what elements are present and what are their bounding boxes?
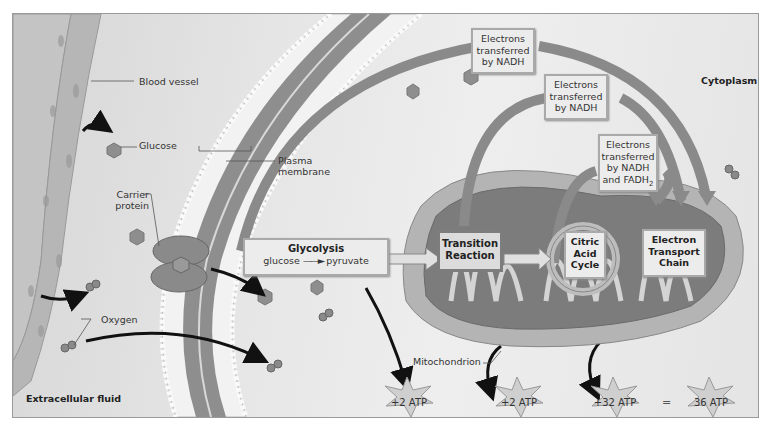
electron-box-2-line2: transferred: [546, 91, 606, 103]
electron-box-3-line4: and FADH2: [600, 174, 656, 190]
carrier-protein-label: Carrier protein: [99, 189, 149, 211]
atp-total: 36 ATP: [676, 397, 746, 409]
citric-acid-cycle-box: Citric Acid Cycle: [564, 231, 606, 279]
blood-vessel-icon: [13, 14, 101, 396]
electron-box-1-line3: by NADH: [473, 56, 533, 68]
electron-transport-chain-label: Electron Transport Chain: [648, 234, 700, 268]
electron-box-3-line1: Electrons: [600, 139, 656, 151]
electron-box-2-line1: Electrons: [546, 79, 606, 91]
electron-box-1: Electrons transferred by NADH: [471, 28, 535, 74]
glycolysis-from: glucose: [263, 255, 300, 266]
diagram-artwork: [13, 14, 758, 417]
electron-box-3: Electrons transferred by NADH and FADH2: [598, 134, 658, 192]
glycolysis-box: Glycolysis glucose ——► pyruvate: [243, 238, 389, 276]
citric-acid-cycle-label: Citric Acid Cycle: [571, 236, 600, 270]
electron-box-3-line3: by NADH: [600, 162, 656, 174]
electron-transport-chain-box: Electron Transport Chain: [642, 229, 706, 277]
electron-box-1-line1: Electrons: [473, 33, 533, 45]
electron-box-2-line3: by NADH: [546, 102, 606, 114]
glucose-label: Glucose: [139, 140, 177, 151]
diagram-frame: Blood vessel Glucose Carrier protein Pla…: [12, 13, 759, 418]
atp-glycolysis: +2 ATP: [374, 397, 444, 409]
atp-etc: +32 ATP: [580, 397, 650, 409]
transition-reaction-label: Transition Reaction: [442, 238, 498, 261]
electron-box-3-line2: transferred: [600, 151, 656, 163]
right-arrow-icon: ——►: [303, 255, 323, 266]
glycolysis-equation: glucose ——► pyruvate: [245, 255, 387, 267]
plasma-membrane-label: Plasma membrane: [278, 155, 338, 177]
glycolysis-title: Glycolysis: [245, 243, 387, 255]
blood-vessel-label: Blood vessel: [139, 76, 199, 87]
cytoplasm-label: Cytoplasm: [701, 75, 757, 86]
atp-citric: +2 ATP: [484, 397, 554, 409]
glycolysis-to: pyruvate: [326, 255, 369, 266]
extracellular-fluid-label: Extracellular fluid: [26, 393, 121, 404]
mitochondrion-label: Mitochondrion: [413, 356, 481, 367]
electron-box-1-line2: transferred: [473, 45, 533, 57]
equals-sign: =: [662, 396, 671, 409]
transition-reaction-box: Transition Reaction: [437, 230, 503, 272]
oxygen-label: Oxygen: [101, 314, 138, 325]
electron-box-2: Electrons transferred by NADH: [544, 74, 608, 120]
arrowheads-icon: [647, 191, 716, 206]
